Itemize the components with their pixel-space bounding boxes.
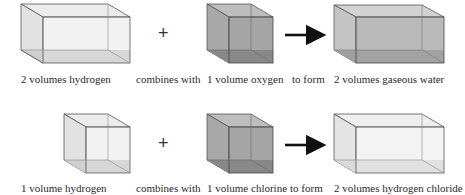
cube-chlorine-1vol <box>207 114 273 173</box>
box-hydrogen-2vol <box>21 4 130 63</box>
box-hydrogen-chloride-2vol <box>334 114 444 173</box>
cube-hydrogen-1vol <box>64 114 130 173</box>
label-reactant2: 1 volume oxygen <box>207 73 283 85</box>
plus-icon: + <box>158 133 169 154</box>
label-reactant1: 2 volumes hydrogen <box>21 73 111 85</box>
box-gaseous-water-2vol <box>334 5 444 63</box>
label-product: 2 volumes hydrogen chloride <box>334 182 463 194</box>
label-product: 2 volumes gaseous water <box>334 73 444 85</box>
label-reactant1: 1 volume hydrogen <box>21 182 107 194</box>
label-result-connector: to form <box>292 73 325 85</box>
label-connector: combines with <box>136 73 200 85</box>
diagram-canvas <box>0 0 465 195</box>
label-result-connector: to form <box>290 182 323 194</box>
plus-icon: + <box>158 23 169 44</box>
label-connector: combines with <box>136 182 200 194</box>
label-reactant2: 1 volume chlorine <box>207 182 287 194</box>
cube-oxygen-1vol <box>207 4 273 63</box>
